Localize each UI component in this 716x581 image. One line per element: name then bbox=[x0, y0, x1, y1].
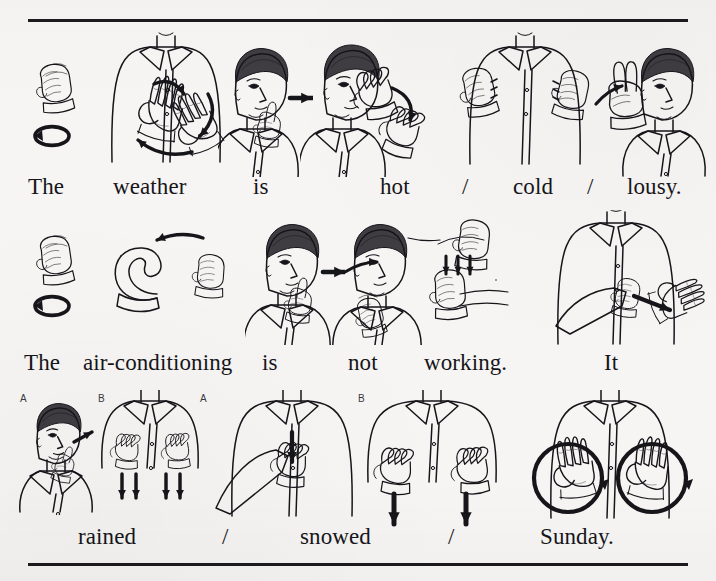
caption-separator-slash: / bbox=[462, 172, 469, 202]
caption-word-weather: weather bbox=[113, 172, 187, 202]
caption-word-rained: rained bbox=[78, 522, 136, 552]
sign-air-conditioning-a-c-hands bbox=[95, 210, 255, 330]
caption-word-working: working. bbox=[424, 348, 507, 378]
sign-is-i-hand-at-chin bbox=[218, 32, 313, 177]
caption-row-weather: Theweatherishot/cold/lousy. bbox=[0, 172, 716, 202]
sign-cold-fists-shiver bbox=[455, 32, 595, 177]
sign-the-letter-t-twist bbox=[18, 32, 88, 172]
caption-word-air-conditioning: air-conditioning bbox=[83, 348, 232, 378]
illustration-band-weather bbox=[0, 32, 716, 167]
step-label-snowed-step-a: A bbox=[200, 393, 207, 404]
caption-separator-slash: / bbox=[222, 522, 229, 552]
sign-weather-w-hands-rotate bbox=[88, 32, 238, 182]
caption-word-sunday: Sunday. bbox=[540, 522, 614, 552]
step-label-rained-step-a: A bbox=[20, 393, 27, 404]
caption-word-cold: cold bbox=[513, 172, 553, 202]
sign-the-letter-t-twist-2 bbox=[18, 210, 88, 340]
illustration-band-air-conditioning bbox=[0, 210, 716, 340]
sign-rained-step-a-rain-at-mouth bbox=[18, 390, 100, 515]
sign-working-fists-tapping bbox=[400, 210, 535, 330]
top-horizontal-rule bbox=[28, 19, 688, 22]
sign-it-index-to-palm bbox=[530, 210, 710, 350]
caption-word-not: not bbox=[348, 348, 378, 378]
bottom-horizontal-rule bbox=[28, 563, 688, 566]
caption-row-air-conditioning: Theair-conditioningisnotworking.It bbox=[0, 348, 716, 378]
caption-word-hot: hot bbox=[380, 172, 410, 202]
caption-word-is: is bbox=[253, 172, 269, 202]
caption-separator-slash: / bbox=[587, 172, 594, 202]
step-label-snowed-step-b: B bbox=[358, 393, 365, 404]
sign-sunday-palms-circling bbox=[510, 390, 710, 525]
sign-rained-step-b-hands-fall bbox=[96, 390, 206, 515]
caption-word-is: is bbox=[262, 348, 278, 378]
step-label-rained-step-b: B bbox=[98, 393, 105, 404]
caption-separator-slash: / bbox=[448, 522, 455, 552]
caption-word-lousy: lousy. bbox=[627, 172, 682, 202]
sign-hot-claw-from-mouth bbox=[300, 32, 460, 177]
sign-lousy-thumb-from-nose bbox=[580, 32, 710, 177]
caption-word-the: The bbox=[24, 348, 60, 378]
illustration-page: Theweatherishot/cold/lousy. Theair-condi… bbox=[0, 0, 716, 581]
sign-snowed-step-b-hands-flutter bbox=[352, 390, 512, 530]
caption-row-rained-snowed-sunday: rained/snowed/Sunday. bbox=[0, 522, 716, 552]
sign-snowed-step-a-white-chest bbox=[196, 390, 356, 520]
caption-word-it: It bbox=[604, 348, 618, 378]
illustration-band-rained-snowed-sunday bbox=[0, 390, 716, 520]
caption-word-the: The bbox=[28, 172, 64, 202]
caption-word-snowed: snowed bbox=[300, 522, 371, 552]
